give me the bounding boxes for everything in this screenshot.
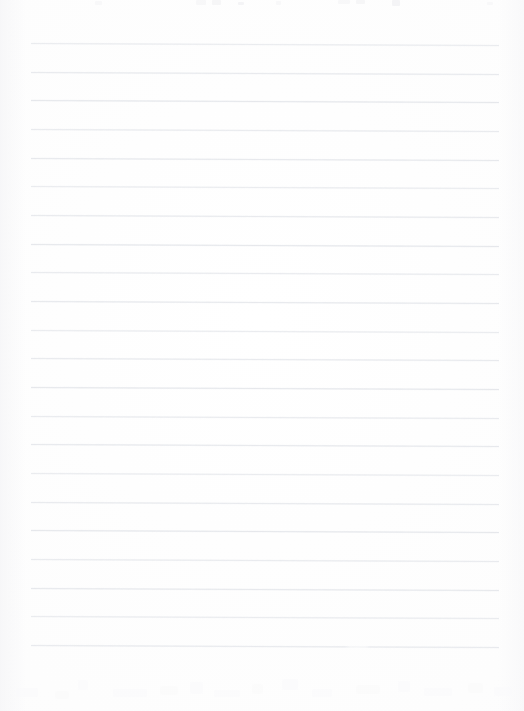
rule-line-8: [31, 244, 499, 247]
rule-line-12: [31, 358, 499, 361]
rule-line-16: [31, 473, 499, 476]
rule-line-6: [31, 186, 499, 189]
rule-line-7: [31, 215, 499, 218]
rule-line-14: [31, 416, 499, 419]
ruled-lines-layer: [0, 0, 524, 711]
rule-line-5: [31, 158, 499, 161]
rule-line-13: [31, 387, 499, 390]
rule-line-17: [31, 502, 499, 505]
rule-line-22: [31, 645, 499, 648]
rule-line-20: [31, 588, 499, 591]
rule-line-4: [31, 129, 499, 132]
rule-line-1: [31, 43, 499, 46]
scanned-page: [0, 0, 524, 711]
rule-line-19: [31, 559, 499, 562]
rule-line-18: [31, 530, 499, 533]
rule-line-21: [31, 616, 499, 619]
rule-line-15: [31, 444, 499, 447]
rule-line-2: [31, 72, 499, 75]
rule-line-3: [31, 100, 499, 103]
rule-line-11: [31, 330, 499, 333]
rule-line-9: [31, 272, 499, 275]
rule-line-10: [31, 301, 499, 304]
